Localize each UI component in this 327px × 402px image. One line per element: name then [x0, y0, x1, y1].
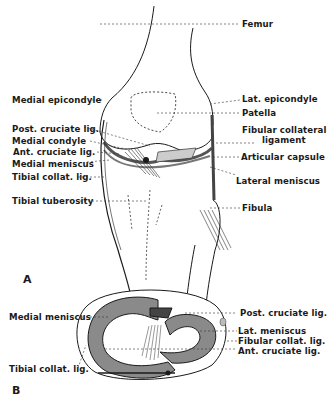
label-lat-meniscus-b: Lat. meniscus — [238, 326, 306, 336]
label-tibial-tuberosity: Tibial tuberosity — [12, 196, 93, 206]
label-medial-epicondyle: Medial epicondyle — [12, 95, 101, 105]
label-fibular-collateral-ligament: ligament — [262, 135, 306, 145]
label-post-cruciate-lig-b: Post. cruciate lig. — [240, 308, 327, 318]
label-tibial-collat-lig-a: Tibial collat. lig. — [12, 172, 92, 182]
panel-b-drawing — [77, 290, 226, 379]
panel-letter-b: B — [12, 384, 20, 397]
label-tibial-collat-lig-b: Tibial collat. lig. — [9, 364, 89, 374]
label-femur: Femur — [242, 19, 273, 29]
label-ant-cruciate-lig: Ant. cruciate lig. — [13, 147, 95, 157]
label-patella: Patella — [242, 108, 276, 118]
label-fibular-collateral: Fibular collateral — [242, 125, 326, 135]
label-articular-capsule: Articular capsule — [241, 152, 325, 162]
label-medial-meniscus-b: Medial meniscus — [9, 312, 91, 322]
label-fibular-collat-lig-b: Fibular collat. lig. — [238, 336, 325, 346]
label-medial-meniscus-a: Medial meniscus — [12, 159, 94, 169]
label-fibula: Fibula — [242, 203, 272, 213]
label-lateral-meniscus: Lateral meniscus — [236, 176, 320, 186]
label-medial-condyle: Medial condyle — [12, 136, 86, 146]
label-lat-epicondyle: Lat. epicondyle — [242, 94, 318, 104]
label-post-cruciate-lig: Post. cruciate lig. — [12, 124, 99, 134]
label-ant-cruciate-lig-b: Ant. cruciate lig. — [238, 346, 320, 356]
panel-letter-a: A — [23, 273, 32, 286]
